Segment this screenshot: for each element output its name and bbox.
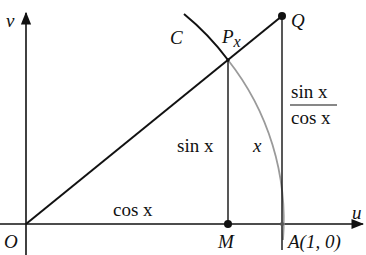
fraction-denominator: cos x [291,107,331,128]
cos-label: cos x [113,199,153,220]
fraction-numerator: sin x [291,81,328,102]
u-axis-label: u [352,202,362,223]
point-p-label: Px [221,26,241,50]
tangent-fraction: sin x cos x [290,81,337,128]
point-p [226,58,230,62]
curve-c-label: C [170,27,183,48]
point-m [224,220,232,228]
line-o-q [26,16,282,224]
point-q-label: Q [291,10,305,31]
sin-label: sin x [177,135,214,156]
point-q [278,12,286,20]
arc-x-label: x [252,135,262,156]
point-a-label: A(1, 0) [286,231,341,253]
unit-circle-diagram: v u O C Px Q M A(1, 0) cos x sin x x sin… [0,0,366,255]
point-a [280,222,284,226]
origin-label: O [4,231,18,252]
v-axis-label: v [6,10,15,31]
point-m-label: M [217,231,235,252]
